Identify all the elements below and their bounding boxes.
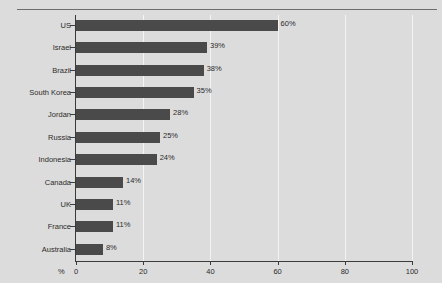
x-axis-tick <box>345 261 346 265</box>
category-label: South Korea <box>1 87 71 98</box>
y-axis-tick <box>70 92 75 93</box>
y-axis-tick <box>70 47 75 48</box>
bar-row: 25% <box>76 127 412 149</box>
x-axis-tick-label: 80 <box>330 267 360 277</box>
category-label: Australia <box>1 244 71 255</box>
category-label: UK <box>1 199 71 210</box>
bar <box>76 87 194 98</box>
bar-value-label: 39% <box>210 40 225 51</box>
bar <box>76 177 123 188</box>
bar-value-label: 35% <box>197 85 212 96</box>
bar <box>76 244 103 255</box>
bar-row: 11% <box>76 194 412 216</box>
y-axis-tick <box>70 226 75 227</box>
y-axis-tick <box>70 204 75 205</box>
x-axis-tick-label: 60 <box>263 267 293 277</box>
x-axis-tick-label: 40 <box>195 267 225 277</box>
chart-title <box>0 0 442 7</box>
bar <box>76 109 170 120</box>
bar-row: 8% <box>76 239 412 261</box>
y-axis-tick <box>70 182 75 183</box>
bar-value-label: 28% <box>173 107 188 118</box>
category-label: France <box>1 221 71 232</box>
x-axis-tick-label: 20 <box>128 267 158 277</box>
y-axis-tick <box>70 249 75 250</box>
category-label: Russia <box>1 132 71 143</box>
bar-row: 11% <box>76 216 412 238</box>
x-axis-tick <box>210 261 211 265</box>
gridline <box>412 15 413 261</box>
bar-row: 39% <box>76 37 412 59</box>
category-label: Brazil <box>1 65 71 76</box>
bar <box>76 132 160 143</box>
x-axis-tick-label: 100 <box>397 267 427 277</box>
bar <box>76 154 157 165</box>
bar-row: 35% <box>76 82 412 104</box>
x-axis-tick <box>278 261 279 265</box>
bar-row: 28% <box>76 104 412 126</box>
bar <box>76 42 207 53</box>
bar-row: 60% <box>76 15 412 37</box>
bar-row: 38% <box>76 60 412 82</box>
bar-row: 14% <box>76 172 412 194</box>
y-axis-tick <box>70 159 75 160</box>
bar-value-label: 11% <box>116 219 130 230</box>
category-label: Israel <box>1 42 71 53</box>
category-label: US <box>1 20 71 31</box>
category-label: Canada <box>1 177 71 188</box>
bar-chart-figure: 60%39%38%35%28%25%24%14%11%11%8% USIsrae… <box>0 0 442 283</box>
category-label: Jordan <box>1 109 71 120</box>
bar-value-label: 14% <box>126 175 141 186</box>
x-axis-tick <box>143 261 144 265</box>
category-axis-labels: USIsraelBrazilSouth KoreaJordanRussiaInd… <box>0 15 71 261</box>
bar-value-label: 24% <box>160 152 175 163</box>
x-axis-tick <box>412 261 413 265</box>
bar <box>76 221 113 232</box>
y-axis-tick <box>70 114 75 115</box>
category-label: Indonesia <box>1 154 71 165</box>
x-axis-line <box>75 261 413 262</box>
bar <box>76 199 113 210</box>
title-divider-rule <box>17 9 437 10</box>
plot-area: 60%39%38%35%28%25%24%14%11%11%8% <box>76 15 412 261</box>
x-axis-tick <box>76 261 77 265</box>
bar <box>76 20 278 31</box>
x-axis-tick-label: 0 <box>61 267 91 277</box>
bar-row: 24% <box>76 149 412 171</box>
bar-value-label: 11% <box>116 197 130 208</box>
y-axis-tick <box>70 137 75 138</box>
bar-value-label: 25% <box>163 130 178 141</box>
y-axis-line <box>75 15 76 261</box>
bar-value-label: 38% <box>207 63 222 74</box>
y-axis-tick <box>70 70 75 71</box>
bar-value-label: 60% <box>281 18 296 29</box>
bar-value-label: 8% <box>106 242 117 253</box>
y-axis-tick <box>70 25 75 26</box>
bar <box>76 65 204 76</box>
